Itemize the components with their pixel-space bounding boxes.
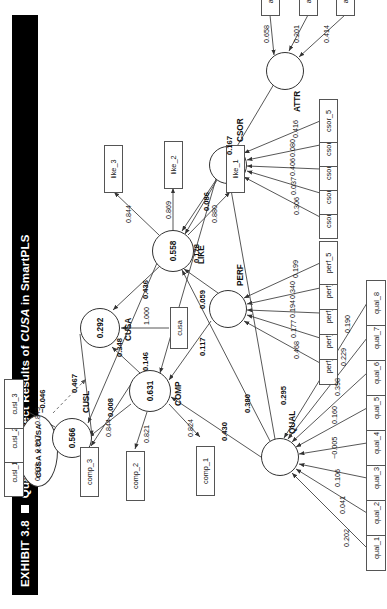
loading-comp-2: 0.821	[142, 425, 151, 443]
r2-cusl: 0.566	[68, 428, 77, 449]
construct-label-comp: COMP	[174, 381, 183, 406]
loading-like-1: 0.880	[210, 205, 219, 223]
weight-csor-2: 0.037	[289, 177, 298, 195]
path-qual-like: 0.380	[243, 394, 252, 413]
indicator-label: attr_1	[341, 0, 350, 3]
weight-csor-3: 0.406	[288, 158, 297, 176]
indicator-label: cusa	[175, 320, 184, 335]
r2-cusa: 0.292	[96, 318, 105, 339]
loading-like-3: 0.844	[124, 205, 133, 223]
construct-qual[interactable]	[261, 438, 299, 476]
indicator-label: qual_2	[372, 502, 381, 524]
indicator-comp-1[interactable]: comp_1	[196, 446, 215, 496]
path-qual-comp: 0.430	[220, 422, 229, 441]
path-attr-like: 0.167	[225, 136, 234, 155]
path-csor-comp: 0.178	[192, 244, 201, 263]
weight-qual-7: 0.229	[339, 348, 348, 366]
r2-like: 0.558	[169, 241, 178, 262]
construct-attr[interactable]	[266, 52, 304, 90]
loading-like-2: 0.869	[164, 201, 173, 219]
indicator-label: csor_5	[324, 110, 333, 132]
weight-attr-1: 0.414	[322, 25, 331, 43]
construct-label-attr: ATTR	[293, 91, 302, 112]
path-quad-cusl: −0.046	[38, 390, 47, 413]
construct-cusa[interactable]: 0.292	[80, 308, 120, 348]
loading-comp-3: 0.844	[104, 419, 113, 437]
construct-label-qual: QUAL	[288, 411, 297, 434]
indicator-comp-3[interactable]: comp_3	[80, 447, 99, 497]
path-comp-cusl: 0.008	[106, 398, 115, 417]
weight-perf-2: 0.177	[289, 320, 298, 338]
path-perf-comp: 0.117	[198, 337, 207, 356]
indicator-csor-5[interactable]: csor_5	[319, 99, 338, 143]
path-qual-csor: 0.295	[279, 386, 288, 405]
indicator-label: qual_5	[372, 397, 381, 419]
indicator-label: comp_2	[131, 463, 140, 489]
indicator-perf-5[interactable]: perf_5	[319, 241, 338, 285]
indicator-qual-8[interactable]: qual_8	[366, 280, 386, 326]
r2-comp: 0.631	[146, 381, 155, 402]
weight-qual-8: 0.190	[343, 315, 352, 333]
indicator-label: qual_6	[372, 362, 381, 384]
indicator-comp-2[interactable]: comp_2	[126, 451, 145, 501]
indicator-label: qual_1	[372, 537, 381, 559]
indicator-label: attr_3	[266, 0, 275, 3]
weight-perf-1: 0.468	[292, 341, 301, 359]
weight-qual-1: 0.202	[342, 529, 351, 547]
weight-perf-3: 0.194	[288, 300, 297, 318]
loading-cusl-1: 0.833	[33, 463, 42, 481]
indicator-label: qual_4	[372, 432, 381, 454]
indicator-label: comp_3	[85, 459, 94, 485]
indicator-label: like_2	[169, 155, 178, 174]
construct-like[interactable]: 0.558	[152, 230, 194, 272]
indicator-like-3[interactable]: like_3	[104, 145, 123, 193]
indicator-attr-1[interactable]: attr_1	[336, 0, 355, 16]
path-like-cusl: 0.348	[115, 338, 124, 357]
indicator-label: cusl_2	[10, 427, 19, 448]
indicator-label: cusl_3	[10, 393, 19, 414]
indicator-cusa[interactable]: cusa	[170, 307, 188, 349]
loading-cusa: 1.000	[142, 307, 151, 325]
loading-cusl-2: 0.917	[33, 435, 42, 453]
path-like-cusa: 0.436	[141, 280, 150, 299]
bullet-square-icon	[21, 505, 29, 513]
indicator-attr-3[interactable]: attr_3	[261, 0, 280, 16]
indicator-label: attr_2	[304, 0, 313, 3]
construct-label-perf: PERF	[236, 264, 245, 286]
weight-qual-5: 0.160	[330, 406, 339, 424]
path-comp-cusa: 0.146	[141, 352, 150, 371]
indicator-label: like_1	[231, 159, 240, 178]
indicator-like-2[interactable]: like_2	[164, 141, 183, 189]
path-csor-like: 0.086	[202, 192, 211, 211]
path-perf-like: 0.059	[198, 290, 207, 309]
diagram-rotated-layer: CUSA x CUSA 0.566 CUSL 0.292 CUSA 0.631 …	[30, 0, 387, 609]
loading-comp-1: 0.824	[186, 419, 195, 437]
weight-csor-5: 0.416	[291, 120, 300, 138]
path-cusa-cusl: 0.467	[70, 374, 79, 393]
weight-perf-5: 0.199	[291, 260, 300, 278]
weight-qual-6: 0.398	[333, 378, 342, 396]
exhibit-page: EXHIBIT 3.8 Quadratic Effect Results of …	[0, 0, 387, 609]
indicator-label: qual_7	[372, 327, 381, 349]
construct-perf[interactable]	[209, 290, 247, 328]
construct-label-csor: CSOR	[236, 118, 245, 142]
weight-csor-4: 0.080	[288, 139, 297, 157]
weight-attr-3: 0.658	[262, 25, 271, 43]
weight-perf-4: 0.340	[288, 281, 297, 299]
construct-label-cusa: CUSA	[124, 318, 133, 341]
indicator-label: comp_1	[201, 458, 210, 484]
weight-csor-1: 0.306	[292, 197, 301, 215]
indicator-attr-2[interactable]: attr_2	[299, 0, 318, 16]
indicator-cusl-3[interactable]: cusl_3	[4, 379, 24, 429]
weight-qual-4: −0.005	[330, 437, 339, 459]
indicator-label: qual_8	[372, 292, 381, 314]
weight-attr-2: 0.201	[292, 25, 301, 43]
indicator-label: qual_3	[372, 467, 381, 489]
weight-qual-3: 0.106	[333, 469, 342, 487]
indicator-label: cusl_1	[10, 461, 19, 482]
construct-label-cusl: CUSL	[82, 391, 91, 413]
indicator-label: perf_5	[324, 253, 333, 274]
indicator-label: like_3	[109, 159, 118, 178]
weight-qual-2: 0.041	[338, 496, 347, 514]
construct-comp[interactable]: 0.631	[129, 370, 171, 412]
